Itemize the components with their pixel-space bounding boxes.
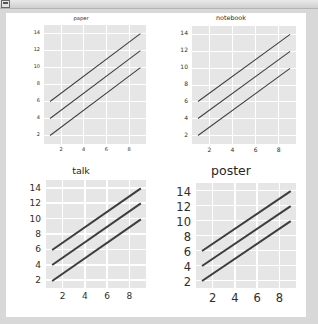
x-axis-tick-label: 8	[264, 147, 294, 153]
subplot-title-notebook: notebook	[156, 15, 306, 21]
y-axis-tick-label: 10	[158, 64, 188, 70]
y-axis-tick-label: 12	[9, 199, 41, 208]
window-chrome-bar	[0, 0, 318, 9]
y-axis-tick-label: 14	[10, 30, 40, 35]
y-axis-tick-label: 14	[9, 184, 41, 193]
y-axis-tick-label: 10	[9, 215, 41, 224]
gridline-horizontal	[46, 279, 146, 281]
y-axis-tick-label: 4	[10, 115, 40, 120]
y-axis-tick-label: 6	[158, 98, 188, 104]
gridline-horizontal	[192, 51, 296, 52]
gridline-horizontal	[44, 33, 146, 34]
y-axis-tick-label: 12	[157, 202, 191, 214]
y-axis-tick-label: 12	[158, 47, 188, 53]
x-axis-tick-label: 8	[114, 292, 144, 301]
gridline-horizontal	[46, 202, 146, 204]
y-axis-tick-label: 12	[10, 47, 40, 52]
gridline-horizontal	[46, 264, 146, 266]
plot-area-poster	[196, 183, 296, 288]
y-axis-tick-label: 4	[9, 261, 41, 270]
subplot-paper: paper24681012142468	[6, 13, 156, 165]
gridline-horizontal	[196, 265, 296, 267]
gridline-horizontal	[46, 187, 146, 189]
y-axis-tick-label: 2	[157, 277, 191, 289]
y-axis-tick-label: 4	[157, 262, 191, 274]
gridline-horizontal	[192, 135, 296, 136]
subplot-poster: poster24681012142468	[156, 165, 306, 317]
gridline-horizontal	[44, 135, 146, 136]
y-axis-tick-label: 14	[157, 187, 191, 199]
y-axis-tick-label: 8	[157, 232, 191, 244]
gridline-horizontal	[44, 118, 146, 119]
y-axis-tick-label: 6	[157, 247, 191, 259]
subplot-grid: paper24681012142468notebook2468101214246…	[6, 13, 306, 317]
y-axis-tick-label: 8	[158, 81, 188, 87]
y-axis-tick-label: 8	[10, 81, 40, 86]
x-axis-tick-label: 8	[114, 147, 144, 152]
gridline-horizontal	[196, 205, 296, 207]
y-axis-tick-label: 6	[9, 245, 41, 254]
figure-canvas: paper24681012142468notebook2468101214246…	[6, 13, 306, 317]
window-menu-icon[interactable]	[1, 0, 10, 8]
y-axis-tick-label: 10	[10, 64, 40, 69]
gridline-horizontal	[192, 34, 296, 35]
y-axis-tick-label: 4	[158, 115, 188, 121]
gridline-horizontal	[44, 50, 146, 51]
y-axis-tick-label: 8	[9, 230, 41, 239]
subplot-talk: talk24681012142468	[6, 165, 156, 317]
subplot-title-talk: talk	[6, 166, 156, 176]
gridline-horizontal	[196, 280, 296, 282]
y-axis-tick-label: 6	[10, 98, 40, 103]
y-axis-tick-label: 2	[10, 132, 40, 137]
screenshot-root: paper24681012142468notebook2468101214246…	[0, 0, 318, 324]
y-axis-tick-label: 2	[9, 276, 41, 285]
plot-area-notebook	[192, 26, 296, 144]
subplot-notebook: notebook24681012142468	[156, 13, 306, 165]
plot-area-paper	[44, 25, 146, 144]
subplot-title-paper: paper	[6, 16, 156, 21]
subplot-title-poster: poster	[156, 165, 306, 178]
gridline-horizontal	[192, 118, 296, 119]
gridline-horizontal	[196, 190, 296, 192]
plot-area-talk	[46, 180, 146, 288]
x-axis-tick-label: 8	[264, 293, 294, 305]
y-axis-tick-label: 2	[158, 132, 188, 138]
y-axis-tick-label: 14	[158, 30, 188, 36]
y-axis-tick-label: 10	[157, 217, 191, 229]
